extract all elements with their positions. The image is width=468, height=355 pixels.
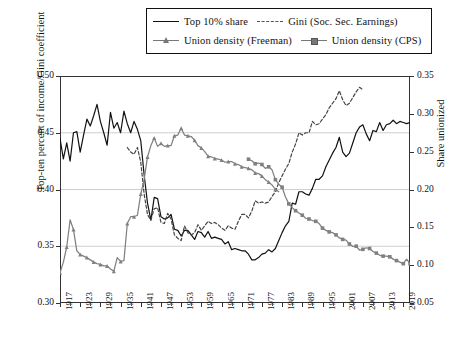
legend-swatch-square-marker-icon: [301, 35, 327, 46]
x-tickmark: [343, 303, 344, 307]
legend-item-gini: Gini (Soc. Sec. Earnings): [257, 16, 398, 27]
x-tickmark-minor: [70, 303, 71, 306]
x-tickmark: [201, 303, 202, 307]
y-tickmark-left: [56, 76, 60, 77]
x-tick-1941: 1941: [145, 292, 155, 310]
x-tickmark-minor: [191, 303, 192, 306]
x-tickmark: [121, 303, 122, 307]
chart-figure: Top 10% share Gini (Soc. Sec. Earnings) …: [0, 0, 468, 355]
legend-label-union-cps: Union density (CPS): [332, 35, 421, 46]
x-tickmark: [60, 303, 61, 307]
legend-swatch-dashed-icon: [257, 16, 283, 27]
legend-row-1: Top 10% share Gini (Soc. Sec. Earnings): [153, 12, 425, 31]
x-tickmark: [242, 303, 243, 307]
y-tick-left-0.50: 0.50: [24, 70, 54, 80]
y-tickmark-right: [410, 227, 414, 228]
x-tick-1995: 1995: [327, 292, 337, 310]
y-tickmark-right: [410, 190, 414, 191]
x-tickmark: [222, 303, 223, 307]
y-tick-left-0.35: 0.35: [24, 240, 54, 250]
y-tick-right-0.15: 0.15: [417, 221, 447, 231]
x-tickmark-minor: [232, 303, 233, 306]
x-tickmark: [161, 303, 162, 307]
x-tickmark: [302, 303, 303, 307]
x-tick-2007: 2007: [367, 292, 377, 310]
x-tickmark: [100, 303, 101, 307]
x-tickmark-minor: [292, 303, 293, 306]
y-tick-left-0.30: 0.30: [24, 297, 54, 307]
x-tick-1989: 1989: [306, 292, 316, 310]
y-tickmark-right: [410, 265, 414, 266]
x-tickmark: [262, 303, 263, 307]
legend-label-union-freeman: Union density (Freeman): [184, 35, 292, 46]
x-tickmark-minor: [131, 303, 132, 306]
x-tick-1965: 1965: [226, 292, 236, 310]
x-tick-1917: 1917: [64, 292, 74, 310]
y-tickmark-left: [56, 246, 60, 247]
x-tickmark: [323, 303, 324, 307]
legend-swatch-solid-black-icon: [153, 16, 179, 27]
x-tickmark: [363, 303, 364, 307]
chart-svg: [60, 76, 410, 303]
series-path-3: [248, 159, 410, 263]
x-tick-1971: 1971: [246, 292, 256, 310]
legend-label-gini: Gini (Soc. Sec. Earnings): [288, 16, 398, 27]
y-tickmark-right: [410, 152, 414, 153]
legend-label-top-10-share: Top 10% share: [184, 16, 248, 27]
x-tickmark: [181, 303, 182, 307]
x-tickmark-minor: [312, 303, 313, 306]
plot-area: [60, 76, 410, 303]
y-tick-right-0.25: 0.25: [417, 146, 447, 156]
x-tickmark: [282, 303, 283, 307]
x-tickmark: [80, 303, 81, 307]
x-tickmark: [383, 303, 384, 307]
x-tickmark-minor: [393, 303, 394, 306]
x-tick-2013: 2013: [387, 292, 397, 310]
y-tick-right-0.20: 0.20: [417, 184, 447, 194]
x-tickmark-minor: [272, 303, 273, 306]
x-tickmark-minor: [171, 303, 172, 306]
y-tick-right-0.10: 0.10: [417, 259, 447, 269]
y-tickmark-right: [410, 114, 414, 115]
legend-item-union-freeman: Union density (Freeman): [153, 35, 292, 46]
x-tick-1929: 1929: [104, 292, 114, 310]
x-tickmark-minor: [110, 303, 111, 306]
x-tick-1935: 1935: [125, 292, 135, 310]
legend-swatch-triangle-marker-icon: [153, 35, 179, 46]
x-tickmark-minor: [252, 303, 253, 306]
x-tickmark: [403, 303, 404, 307]
y-tick-right-0.30: 0.30: [417, 108, 447, 118]
y-tickmark-left: [56, 133, 60, 134]
x-tick-2001: 2001: [347, 292, 357, 310]
legend-item-union-cps: Union density (CPS): [301, 35, 421, 46]
legend-item-top-10-share: Top 10% share: [153, 16, 248, 27]
x-tickmark: [141, 303, 142, 307]
x-tick-1983: 1983: [286, 292, 296, 310]
chart-legend: Top 10% share Gini (Soc. Sec. Earnings) …: [146, 8, 432, 54]
x-tickmark-minor: [90, 303, 91, 306]
x-tickmark-minor: [373, 303, 374, 306]
x-tick-1959: 1959: [205, 292, 215, 310]
y-tickmark-left: [56, 190, 60, 191]
x-tick-1977: 1977: [266, 292, 276, 310]
x-tick-1953: 1953: [185, 292, 195, 310]
x-tickmark-minor: [353, 303, 354, 306]
y-tick-right-0.35: 0.35: [417, 70, 447, 80]
x-tick-1947: 1947: [165, 292, 175, 310]
x-tickmark-minor: [151, 303, 152, 306]
y-tick-left-0.40: 0.40: [24, 184, 54, 194]
y-tickmark-right: [410, 76, 414, 77]
series-path-0: [60, 104, 410, 259]
y-tick-right-0.05: 0.05: [417, 297, 447, 307]
legend-row-2: Union density (Freeman) Union density (C…: [153, 31, 425, 50]
x-tick-2019: 2019: [407, 292, 417, 310]
x-tickmark-minor: [211, 303, 212, 306]
x-tick-1923: 1923: [84, 292, 94, 310]
y-tick-left-0.45: 0.45: [24, 127, 54, 137]
x-tickmark-minor: [333, 303, 334, 306]
